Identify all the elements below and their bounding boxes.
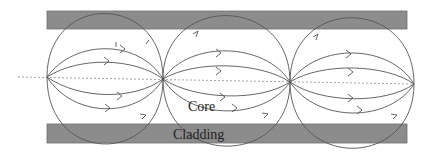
optical-axis	[18, 77, 414, 84]
fiber-diagram: Core Cladding	[0, 0, 432, 153]
cladding-label: Cladding	[173, 127, 224, 142]
core-label: Core	[188, 99, 215, 114]
bottom-cladding	[47, 124, 407, 143]
